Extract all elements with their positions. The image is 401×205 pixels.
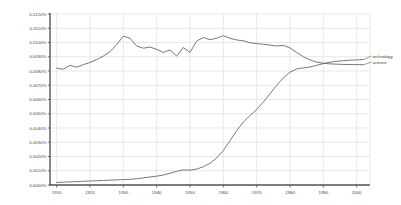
legend-label-technology: technology: [373, 54, 394, 59]
y-axis-tick-label: 0.0050%: [29, 111, 46, 116]
y-axis-tick-label: 0.0080%: [29, 69, 46, 74]
y-axis-tick-label: 0.0010%: [29, 168, 46, 173]
y-axis-tick-label: 0.0030%: [29, 140, 46, 145]
y-axis-tick-label: 0.0020%: [29, 154, 46, 159]
y-axis-tick-label: 0.0070%: [29, 83, 46, 88]
x-axis-tick-label: 1950: [185, 190, 195, 195]
data-series: [57, 36, 364, 183]
x-axis-tick-label: 2000: [352, 190, 362, 195]
x-axis-tick-labels: 1910192019301940195019601970198019902000: [52, 190, 362, 195]
y-axis-tick-label: 0.0120%: [29, 12, 46, 17]
y-axis-tick-label: 0.0000%: [29, 183, 46, 188]
x-axis-tick-label: 1970: [252, 190, 262, 195]
x-axis-tick-label: 1910: [52, 190, 62, 195]
x-axis-tick-label: 1930: [118, 190, 128, 195]
y-axis-tick-label: 0.0110%: [29, 26, 46, 31]
x-axis-tick-label: 1920: [85, 190, 95, 195]
y-axis-tick-label: 0.0100%: [29, 40, 46, 45]
series-line-technology: [57, 60, 364, 183]
y-axis-tick-labels: 0.0120%0.0110%0.0100%0.0090%0.0080%0.007…: [29, 12, 46, 188]
y-axis-tick-label: 0.0040%: [29, 126, 46, 131]
x-axis-tick-label: 1940: [152, 190, 162, 195]
x-axis-tick-label: 1980: [285, 190, 295, 195]
chart-canvas: 0.0120%0.0110%0.0100%0.0090%0.0080%0.007…: [0, 0, 401, 205]
legend-label-science: science: [373, 60, 388, 65]
series-line-science: [57, 36, 364, 70]
chart-legend: technologyscience: [363, 54, 393, 65]
x-axis-tick-label: 1990: [318, 190, 328, 195]
y-axis-tick-label: 0.0090%: [29, 54, 46, 59]
ngram-chart: 0.0120%0.0110%0.0100%0.0090%0.0080%0.007…: [0, 0, 401, 205]
x-axis-tick-label: 1960: [218, 190, 228, 195]
y-axis-tick-label: 0.0060%: [29, 97, 46, 102]
